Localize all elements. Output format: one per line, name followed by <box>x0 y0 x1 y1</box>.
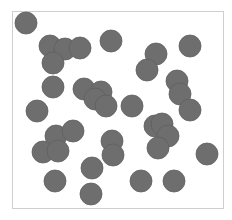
disc <box>81 157 103 179</box>
disc-canvas <box>0 0 232 220</box>
disc <box>100 30 122 52</box>
disc <box>95 95 117 117</box>
disc <box>147 137 169 159</box>
disc <box>163 170 185 192</box>
disc <box>179 99 201 121</box>
disc <box>69 37 91 59</box>
disc <box>26 100 48 122</box>
disc <box>15 12 37 34</box>
disc <box>121 95 143 117</box>
disc <box>47 140 69 162</box>
disc <box>130 170 152 192</box>
disc <box>179 35 201 57</box>
disc <box>80 183 102 205</box>
disc <box>62 120 84 142</box>
disc <box>136 59 158 81</box>
disc <box>102 144 124 166</box>
disc <box>44 170 66 192</box>
disc <box>196 143 218 165</box>
disc <box>42 52 64 74</box>
disc <box>42 76 64 98</box>
